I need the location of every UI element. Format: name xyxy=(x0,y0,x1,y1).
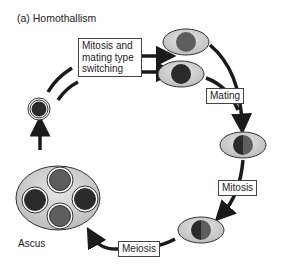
ascus-label: Ascus xyxy=(18,238,45,249)
haploid-cell-a xyxy=(163,29,209,55)
ascus xyxy=(16,166,100,230)
meiosis-label: Meiosis xyxy=(118,241,160,257)
diploid-cell-1 xyxy=(220,132,266,158)
haploid-spore xyxy=(28,98,50,120)
diploid-cell-2 xyxy=(178,217,224,243)
haploid-cell-alpha xyxy=(158,61,204,87)
mating-label: Mating xyxy=(206,88,244,104)
label-line: Mitosis and xyxy=(82,40,138,52)
mitosis-label: Mitosis xyxy=(218,180,257,196)
label-line: mating type xyxy=(82,52,138,64)
label-line: switching xyxy=(82,63,138,75)
mitosis-switching-label: Mitosis and mating type mating type swit… xyxy=(78,38,142,77)
